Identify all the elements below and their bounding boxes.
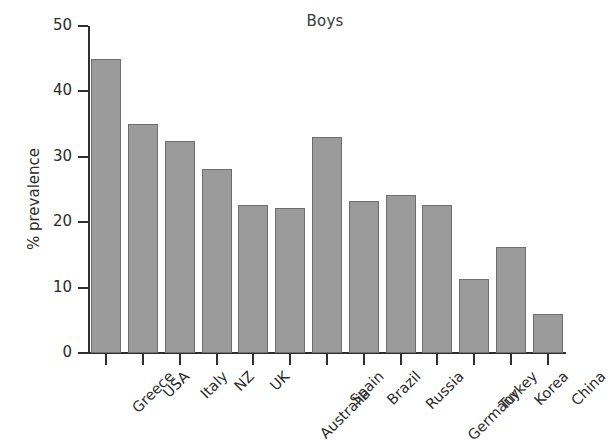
y-tick	[78, 25, 88, 27]
x-tick	[142, 354, 144, 365]
bar-turkey	[459, 279, 489, 353]
y-tick-label: 40	[28, 81, 72, 99]
x-label-brazil: Brazil	[384, 368, 424, 408]
x-tick	[547, 354, 549, 365]
bar-greece	[91, 59, 121, 353]
y-tick-label: 10	[28, 278, 72, 296]
bar-nz	[202, 169, 232, 353]
x-label-russia: Russia	[422, 368, 466, 412]
y-tick	[78, 90, 88, 92]
y-tick-label: 30	[28, 147, 72, 165]
x-tick	[436, 354, 438, 365]
x-label-turkey: Turkey	[496, 368, 541, 413]
x-tick	[326, 354, 328, 365]
y-tick	[78, 221, 88, 223]
bar-russia	[386, 195, 416, 353]
x-tick	[473, 354, 475, 365]
bar-usa	[128, 124, 158, 353]
x-label-korea: Korea	[531, 368, 571, 408]
bar-spain	[312, 137, 342, 353]
bar-australia	[275, 208, 305, 353]
bar-uk	[238, 205, 268, 353]
y-tick	[78, 352, 88, 354]
y-tick-label: 50	[28, 16, 72, 34]
x-label-italy: Italy	[197, 368, 231, 402]
bar-italy	[165, 141, 195, 353]
y-tick-label: 0	[28, 343, 72, 361]
x-tick	[289, 354, 291, 365]
x-tick	[105, 354, 107, 365]
chart-title-text: Boys	[307, 12, 344, 30]
bar-germany	[422, 205, 452, 353]
x-tick	[179, 354, 181, 365]
y-axis-label: % prevalence	[25, 99, 43, 299]
y-tick-label: 20	[28, 212, 72, 230]
chart-title: Boys	[0, 12, 578, 30]
x-tick	[252, 354, 254, 365]
y-axis-line	[88, 26, 90, 354]
x-tick	[400, 354, 402, 365]
x-label-china: China	[568, 368, 608, 409]
y-tick	[78, 156, 88, 158]
x-tick	[510, 354, 512, 365]
bar-brazil	[349, 201, 379, 353]
x-tick	[363, 354, 365, 365]
y-tick	[78, 287, 88, 289]
bar-korea	[496, 247, 526, 353]
x-tick	[216, 354, 218, 365]
x-label-uk: UK	[267, 368, 293, 394]
x-label-nz: NZ	[231, 368, 257, 394]
bar-china	[533, 314, 563, 353]
